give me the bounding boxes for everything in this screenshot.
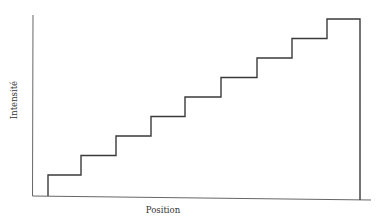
step-profile-line	[48, 19, 360, 200]
x-axis	[33, 196, 372, 200]
y-axis	[33, 15, 34, 196]
step-chart: Position Intensité	[0, 0, 384, 223]
x-axis-label: Position	[146, 205, 181, 215]
y-axis-label: Intensité	[9, 81, 19, 119]
